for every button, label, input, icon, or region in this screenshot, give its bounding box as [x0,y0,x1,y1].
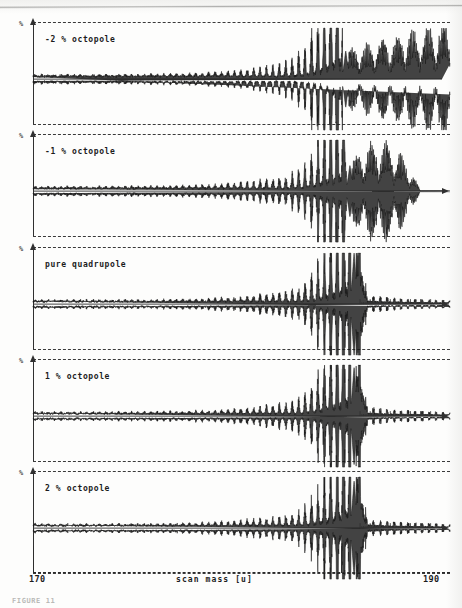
x-axis-tick-left [33,546,34,573]
x-axis-title: scan mass [u] [176,575,253,584]
x-axis-dashed-rule [33,572,450,573]
x-axis-tick-label-max: 190 [423,575,440,584]
panel-octopole-minus2-trace [0,22,462,130]
x-axis-arrowhead [442,301,449,307]
panel-pure-quadrupole: %pure quadrupole [0,247,462,349]
panel-octopole-plus1: %1 % octopole [0,359,462,461]
x-axis-tick-right [341,546,342,573]
figure-caption: FIGURE 11 [12,597,55,605]
x-axis-tick-label-min: 170 [29,575,46,584]
x-axis-arrowhead [442,413,449,419]
panel-pure-quadrupole-trace [0,247,462,355]
panel-octopole-minus1-trace [0,134,462,242]
figure-root: %-2 % octopole%-1 % octopole%pure quadru… [0,0,462,608]
panel-stack: %-2 % octopole%-1 % octopole%pure quadru… [0,0,462,608]
x-axis-arrowhead [442,188,449,194]
panel-octopole-minus2: %-2 % octopole [0,22,462,124]
x-axis-arrowhead [442,525,449,531]
panel-octopole-minus1: %-1 % octopole [0,134,462,236]
x-axis-block: 170 190 scan mass [u] [0,546,462,592]
panel-octopole-plus1-trace [0,359,462,467]
